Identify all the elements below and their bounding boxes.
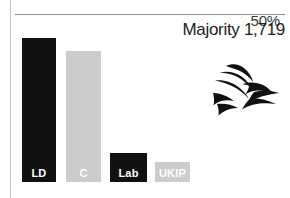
election-result-bar-chart: 50% Majority 1,719 LD C Lab UKIP xyxy=(0,0,290,198)
bar-c: C xyxy=(66,51,101,182)
bar-label-ukip: UKIP xyxy=(155,168,190,179)
liberal-democrats-bird-icon xyxy=(206,58,280,116)
bar-ukip: UKIP xyxy=(155,162,190,182)
bar-label-ld: LD xyxy=(22,168,56,179)
bar-lab: Lab xyxy=(110,153,147,182)
bar-label-c: C xyxy=(66,168,101,179)
bar-ld: LD xyxy=(22,38,56,182)
bar-label-lab: Lab xyxy=(110,168,147,179)
